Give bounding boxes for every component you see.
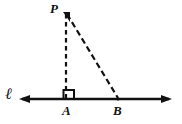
line-l [19, 95, 172, 103]
point-b-marker [116, 97, 119, 100]
label-point-a: A [62, 104, 71, 117]
line-l-right-arrowhead [161, 95, 172, 103]
line-l-left-arrowhead [19, 95, 30, 103]
label-point-p: P [50, 2, 58, 15]
segment-pb-dashed [67, 14, 118, 98]
figure-canvas [0, 0, 182, 124]
label-line-l: ℓ [5, 86, 12, 102]
label-point-b: B [113, 104, 122, 117]
geometry-figure: P A B ℓ [0, 0, 182, 124]
